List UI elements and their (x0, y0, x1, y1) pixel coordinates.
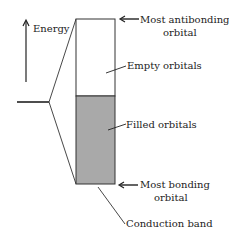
most-bonding-label-2: orbital (154, 192, 188, 203)
bonding-arrow-icon (119, 182, 138, 188)
most-antibonding-label-1: Most antibonding (140, 14, 229, 25)
filled-orbitals-label: Filled orbitals (126, 119, 197, 130)
most-bonding-label-1: Most bonding (140, 179, 210, 190)
antibonding-arrow-icon (120, 16, 139, 22)
conduction-band-label: Conduction band (126, 218, 213, 229)
fan-line-bottom (49, 102, 76, 184)
energy-arrow-icon (23, 20, 29, 82)
conduction-pointer (98, 187, 125, 224)
filled-region (76, 96, 115, 184)
most-antibonding-label-2: orbital (163, 27, 197, 38)
empty-region (76, 19, 115, 96)
empty-orbitals-label: Empty orbitals (127, 60, 202, 71)
energy-label: Energy (33, 23, 70, 34)
